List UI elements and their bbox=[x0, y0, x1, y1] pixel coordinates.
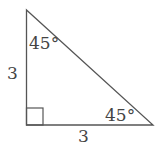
left-side-label: 3 bbox=[7, 63, 18, 83]
top-angle-label: 45° bbox=[29, 33, 59, 53]
bottom-side-label: 3 bbox=[78, 126, 89, 146]
triangle-diagram: 45° 45° 3 3 bbox=[0, 0, 164, 150]
bottom-right-angle-label: 45° bbox=[105, 105, 135, 125]
right-angle-marker bbox=[27, 108, 44, 125]
